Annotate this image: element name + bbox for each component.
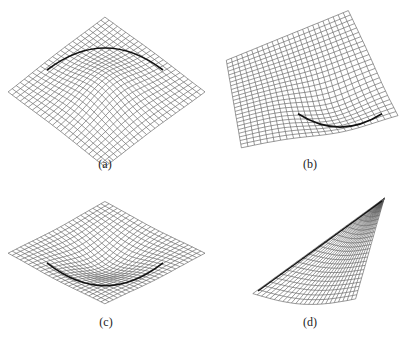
wireframe-figure — [0, 0, 405, 346]
mesh-surface-c — [8, 202, 205, 304]
mesh-surface-d — [253, 198, 384, 304]
caption-b: (b) — [303, 158, 317, 170]
figure-canvas — [0, 0, 405, 346]
caption-a: (a) — [98, 158, 111, 170]
fold-edge-line — [47, 48, 163, 70]
mesh-grid-lines — [8, 17, 205, 167]
mesh-surface-a — [8, 17, 205, 167]
fold-edge-line — [298, 114, 382, 127]
caption-d: (d) — [303, 316, 317, 328]
caption-c: (c) — [99, 316, 112, 328]
mesh-grid-lines — [226, 11, 398, 148]
mesh-surface-b — [226, 11, 398, 148]
mesh-grid-lines — [8, 202, 205, 304]
